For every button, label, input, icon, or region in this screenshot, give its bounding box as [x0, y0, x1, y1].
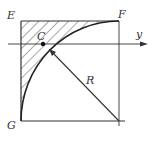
- label-G: G: [7, 119, 16, 132]
- diagram-canvas: E F G C R y: [0, 0, 153, 151]
- label-E: E: [6, 9, 15, 22]
- label-R: R: [85, 74, 94, 87]
- label-y-axis: y: [135, 28, 143, 41]
- figure-caption: [40, 140, 115, 146]
- radius-line: [49, 49, 119, 121]
- arrow-head-icon: [140, 42, 148, 47]
- label-C: C: [37, 30, 46, 43]
- label-F: F: [117, 8, 126, 21]
